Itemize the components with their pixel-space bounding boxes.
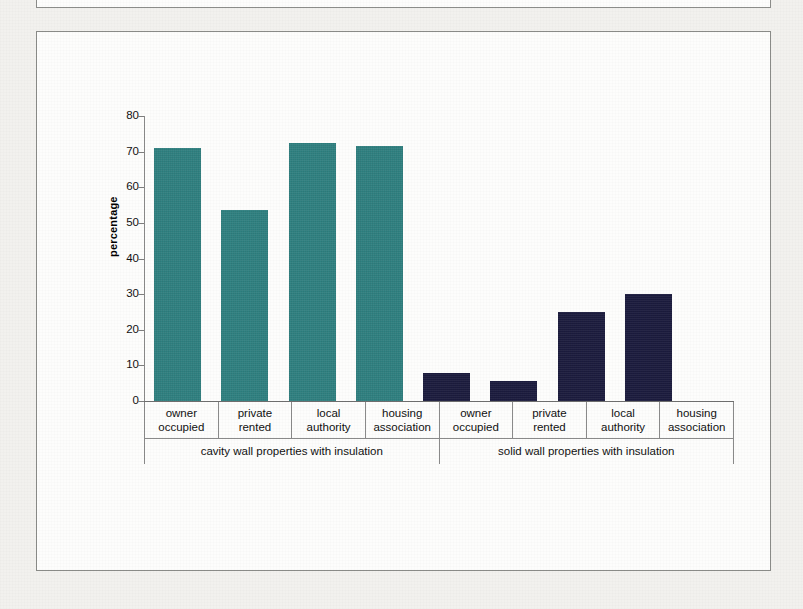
bar-solid-local-authority[interactable] [558, 312, 605, 401]
y-axis-tick-labels: 80 70 60 50 40 30 20 10 0 [99, 32, 139, 572]
category-line-2: rented [514, 420, 585, 434]
bar-slot-5 [480, 116, 547, 401]
bar-slot-0 [144, 116, 211, 401]
bar-slot-3 [346, 116, 413, 401]
y-tick-40: 40 [113, 253, 139, 265]
bar-slot-1 [211, 116, 278, 401]
bar-cavity-private-rented[interactable] [221, 210, 268, 401]
bar-series [144, 116, 682, 401]
category-line-1: private [220, 406, 291, 420]
category-line-1: local [588, 406, 659, 420]
y-tick-50: 50 [113, 217, 139, 229]
category-label-solid-owner-occupied: owner occupied [439, 402, 513, 439]
y-tick-80: 80 [113, 110, 139, 122]
y-tick-10: 10 [113, 359, 139, 371]
category-line-2: occupied [441, 420, 512, 434]
category-line-1: owner [441, 406, 512, 420]
category-line-2: occupied [146, 420, 217, 434]
bar-slot-4 [413, 116, 480, 401]
bar-cavity-housing-association[interactable] [356, 146, 403, 401]
category-label-cavity-housing-association: housing association [365, 402, 439, 439]
y-tick-0: 0 [113, 395, 139, 407]
bar-solid-owner-occupied[interactable] [423, 373, 470, 402]
group-label-solid-wall: solid wall properties with insulation [439, 439, 734, 465]
bar-solid-private-rented[interactable] [490, 381, 537, 401]
y-tick-20: 20 [113, 324, 139, 336]
bar-slot-2 [279, 116, 346, 401]
category-line-2: authority [588, 420, 659, 434]
group-label-row: cavity wall properties with insulation s… [145, 439, 734, 465]
category-line-1: local [293, 406, 364, 420]
y-tick-30: 30 [113, 288, 139, 300]
category-label-table: owner occupied private rented local auth… [144, 402, 734, 464]
category-label-row: owner occupied private rented local auth… [145, 402, 734, 439]
bar-cavity-local-authority[interactable] [289, 143, 336, 401]
upper-page-panel [36, 0, 771, 8]
category-line-1: housing [367, 406, 438, 420]
y-tick-70: 70 [113, 146, 139, 158]
bar-chart: percentage 80 70 60 50 40 30 20 10 0 [37, 32, 772, 572]
category-label-solid-housing-association: housing association [660, 402, 734, 439]
category-line-2: rented [220, 420, 291, 434]
chart-panel: percentage 80 70 60 50 40 30 20 10 0 [36, 31, 771, 571]
category-label-cavity-local-authority: local authority [292, 402, 366, 439]
y-tick-60: 60 [113, 181, 139, 193]
bar-solid-housing-association[interactable] [625, 294, 672, 401]
category-label-cavity-owner-occupied: owner occupied [145, 402, 219, 439]
group-label-cavity-wall: cavity wall properties with insulation [145, 439, 440, 465]
category-label-cavity-private-rented: private rented [218, 402, 292, 439]
category-label-solid-local-authority: local authority [586, 402, 660, 439]
category-label-solid-private-rented: private rented [513, 402, 587, 439]
category-line-2: association [367, 420, 438, 434]
bar-slot-7 [615, 116, 682, 401]
category-line-1: housing [661, 406, 732, 420]
category-line-2: authority [293, 420, 364, 434]
plot-area [144, 116, 682, 401]
bar-slot-6 [548, 116, 615, 401]
category-line-1: private [514, 406, 585, 420]
category-line-2: association [661, 420, 732, 434]
bar-cavity-owner-occupied[interactable] [154, 148, 201, 401]
category-line-1: owner [146, 406, 217, 420]
